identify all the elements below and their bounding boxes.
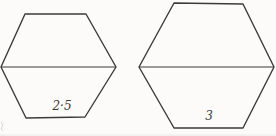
left-hexagon-side-label: 2·5: [52, 100, 71, 112]
right-hexagon-side-label: 3: [205, 110, 213, 122]
scan-artifact-mark: [1, 122, 3, 131]
geometry-diagram: 2·5 3: [0, 0, 276, 136]
hexagons-svg: [0, 0, 276, 136]
